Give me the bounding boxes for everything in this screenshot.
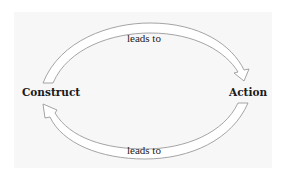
node-construct: Construct <box>22 86 80 98</box>
edge-label-top: leads to <box>127 32 161 44</box>
node-action: Action <box>229 86 267 98</box>
edge-label-bottom: leads to <box>127 144 161 156</box>
diagram-canvas: Construct Action leads to leads to <box>0 0 287 180</box>
